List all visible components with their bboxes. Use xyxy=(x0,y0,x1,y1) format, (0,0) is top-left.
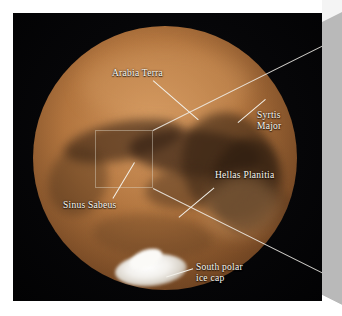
label-syrtis-major-line2: Major xyxy=(257,121,303,132)
label-south-polar-ice-cap: South polar ice cap xyxy=(196,262,258,283)
label-syrtis-major: Syrtis Major xyxy=(257,110,303,131)
label-south-polar-ice-cap-line1: South polar xyxy=(196,262,258,273)
label-sinus-sabeus: Sinus Sabeus xyxy=(63,200,116,211)
figure-page: Arabia Terra Syrtis Major Hellas Planiti… xyxy=(0,0,342,316)
label-syrtis-major-line1: Syrtis xyxy=(257,110,303,121)
mars-disk xyxy=(33,26,297,290)
label-hellas-planitia: Hellas Planitia xyxy=(215,170,274,181)
label-arabia-terra: Arabia Terra xyxy=(112,68,163,79)
mars-disk-wrapper xyxy=(33,26,297,290)
label-south-polar-ice-cap-line2: ice cap xyxy=(196,273,258,284)
mars-photograph xyxy=(13,13,322,301)
